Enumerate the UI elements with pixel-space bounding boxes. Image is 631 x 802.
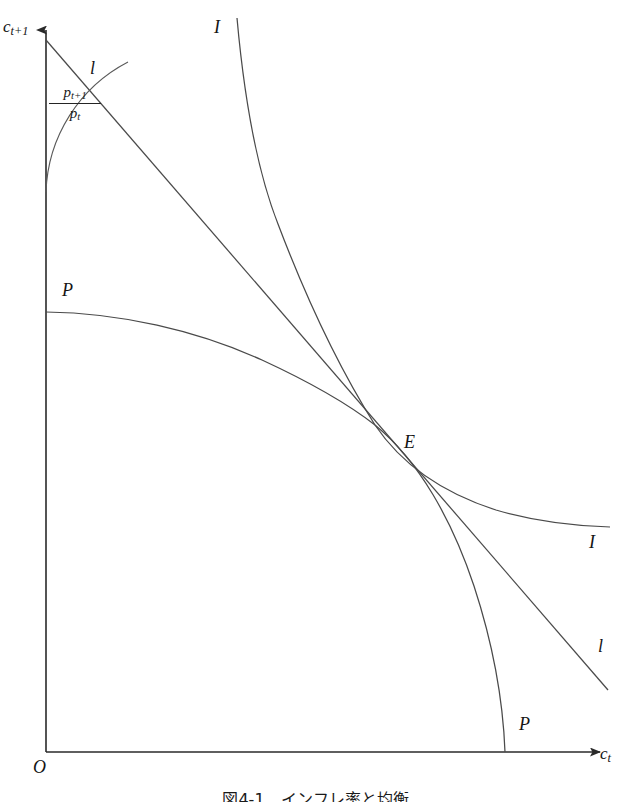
indifference-curve-label-bottom: I (589, 533, 595, 551)
origin-label: O (33, 758, 46, 776)
x-axis-label-base: c (600, 744, 608, 763)
indifference-curve (237, 18, 610, 527)
budget-line (46, 40, 608, 690)
slope-denominator: pt (44, 104, 106, 123)
ppf-label-top: P (62, 281, 73, 299)
indifference-curve-label-top: I (214, 18, 220, 36)
budget-line-label-top: l (90, 59, 95, 77)
figure-container: ct+1 ct O pt+1 pt l l I I P P E 図4-1 インフ… (0, 0, 631, 802)
ppf-label-bottom: P (519, 715, 530, 733)
slope-numerator: pt+1 (44, 84, 106, 103)
y-axis-label-base: c (3, 17, 11, 36)
y-axis-label: ct+1 (3, 18, 28, 37)
y-axis-label-subscript: t+1 (11, 24, 29, 38)
slope-ratio-annotation: pt+1 pt (44, 84, 106, 123)
x-axis-label: ct (600, 745, 611, 764)
figure-caption: 図4-1 インフレ率と均衡 (0, 786, 631, 802)
budget-line-label-bottom: l (598, 637, 603, 655)
slope-denominator-subscript: t (77, 110, 80, 122)
slope-angle-arc (46, 62, 128, 192)
equilibrium-point-label: E (404, 433, 415, 451)
x-axis-label-subscript: t (608, 751, 611, 765)
production-possibility-curve (46, 312, 505, 752)
slope-numerator-subscript: t+1 (71, 89, 87, 101)
slope-numerator-base: p (63, 84, 71, 100)
